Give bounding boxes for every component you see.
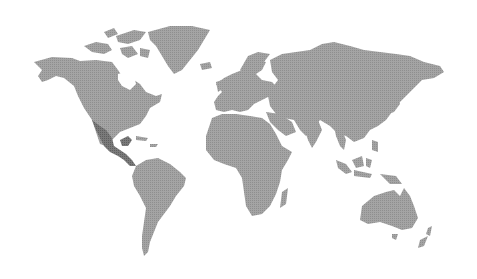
asia [268,42,444,142]
map-canvas [0,0,477,279]
arctic-islands [84,28,150,58]
world-map: World map [0,0,477,279]
south-america [132,158,186,256]
maritime-southeast-asia [336,140,402,184]
australia [360,188,418,230]
greenland [148,26,210,74]
new-zealand [418,226,432,248]
